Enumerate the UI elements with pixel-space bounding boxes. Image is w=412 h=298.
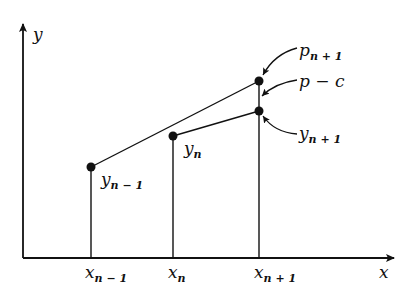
point-p-n-plus-1 bbox=[255, 77, 264, 86]
diagram-svg: y x yn − 1 yn pn + 1 p − c yn + 1 xn − 1… bbox=[0, 0, 412, 298]
label-p-n-plus-1: pn + 1 bbox=[299, 40, 342, 63]
tick-label-x-n-minus-1: xn − 1 bbox=[85, 262, 127, 285]
label-y-n: yn bbox=[183, 138, 202, 161]
label-y-n-minus-1: yn − 1 bbox=[100, 169, 143, 192]
leader-arrow-p-n-plus-1 bbox=[263, 48, 297, 75]
point-y-n bbox=[169, 132, 178, 141]
label-y-n-plus-1: yn + 1 bbox=[298, 123, 341, 146]
y-axis-label: y bbox=[32, 24, 43, 44]
predictor-line bbox=[91, 81, 259, 167]
point-y-n-minus-1 bbox=[87, 163, 96, 172]
leader-arrow-p-minus-c bbox=[262, 80, 297, 96]
corrector-line bbox=[173, 111, 259, 136]
point-y-n-plus-1 bbox=[255, 107, 264, 116]
label-p-minus-c: p − c bbox=[299, 71, 345, 91]
tick-label-x-n: xn bbox=[168, 262, 186, 285]
predictor-corrector-diagram: y x yn − 1 yn pn + 1 p − c yn + 1 xn − 1… bbox=[0, 0, 412, 298]
leader-arrow-y-n-plus-1 bbox=[263, 116, 297, 134]
tick-label-x-n-plus-1: xn + 1 bbox=[254, 262, 296, 285]
x-axis-label: x bbox=[379, 262, 389, 282]
